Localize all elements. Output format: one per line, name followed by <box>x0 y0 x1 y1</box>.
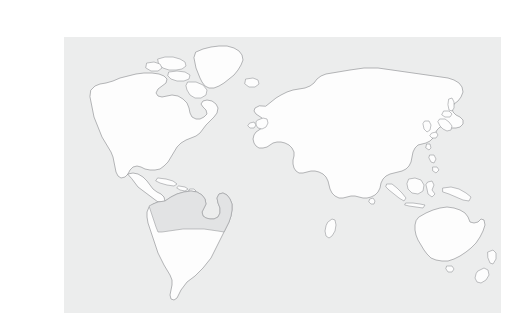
world-map-svg <box>40 16 505 317</box>
world-map-figure: Outline world map with one highlighted r… <box>40 16 505 317</box>
tasmania-landmass <box>446 266 454 272</box>
iceland-landmass <box>245 78 259 87</box>
sakhalin-landmass <box>448 98 454 111</box>
